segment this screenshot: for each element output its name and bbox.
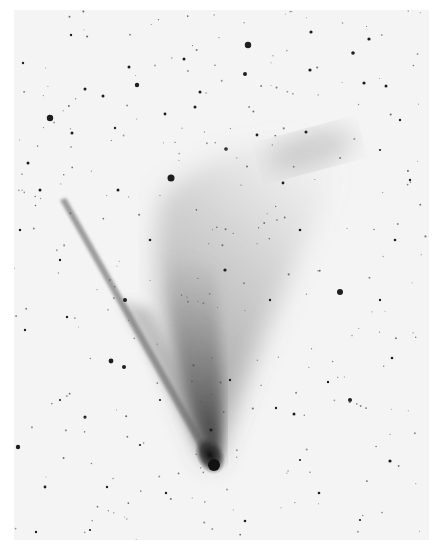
faint-star [291, 11, 292, 12]
faint-star [129, 34, 131, 36]
faint-star [263, 222, 265, 224]
faint-star [318, 503, 319, 504]
faint-star [420, 12, 421, 13]
faint-star [252, 111, 254, 113]
faint-star [332, 361, 334, 363]
faint-star [257, 359, 259, 361]
star [19, 229, 21, 231]
faint-star [294, 502, 295, 503]
faint-star [424, 235, 426, 237]
star [117, 189, 120, 192]
faint-star [286, 50, 288, 52]
faint-star [356, 403, 358, 405]
faint-star [412, 282, 413, 283]
faint-star [14, 267, 15, 269]
faint-star [83, 29, 84, 30]
faint-star [214, 142, 215, 143]
faint-star [407, 170, 409, 172]
faint-star [391, 409, 392, 410]
faint-star [366, 480, 368, 482]
faint-star [170, 498, 172, 500]
faint-star [106, 195, 107, 196]
faint-star [226, 488, 228, 490]
faint-star [248, 106, 250, 108]
faint-star [111, 140, 112, 141]
faint-star [197, 301, 198, 302]
star [293, 413, 296, 416]
faint-star [381, 34, 383, 36]
faint-star [272, 55, 273, 56]
faint-star [408, 410, 409, 411]
star [128, 66, 131, 69]
faint-star [233, 509, 234, 510]
star [89, 529, 91, 531]
faint-star [368, 277, 370, 279]
faint-star [415, 337, 417, 339]
faint-star [230, 128, 231, 129]
faint-star [421, 254, 422, 255]
faint-star [138, 214, 140, 216]
faint-star [60, 183, 61, 184]
star [309, 30, 312, 33]
faint-star [275, 206, 276, 207]
faint-star [140, 490, 142, 492]
faint-star [84, 417, 86, 419]
star [27, 162, 30, 165]
faint-star [223, 411, 225, 413]
star [16, 445, 20, 449]
faint-star [221, 244, 223, 246]
faint-star [47, 86, 48, 87]
star [367, 37, 370, 40]
star [59, 259, 61, 261]
faint-star [136, 539, 137, 540]
faint-star [116, 409, 117, 410]
faint-star [360, 405, 362, 407]
faint-star [243, 282, 245, 284]
faint-star [236, 157, 237, 158]
faint-star [178, 472, 180, 474]
faint-star [45, 67, 46, 68]
faint-star [385, 311, 386, 312]
faint-star [382, 256, 383, 257]
faint-star [128, 196, 129, 197]
star [269, 299, 271, 301]
star [135, 83, 139, 87]
faint-star [187, 15, 189, 17]
faint-star [278, 356, 279, 357]
faint-star [107, 309, 109, 311]
faint-star [43, 95, 44, 96]
faint-star [69, 16, 71, 18]
faint-star [379, 78, 380, 79]
faint-star [201, 401, 202, 402]
faint-star [276, 219, 278, 221]
faint-star [274, 135, 276, 137]
faint-star [70, 146, 72, 148]
faint-star [23, 192, 25, 194]
faint-star [171, 57, 173, 59]
faint-star [63, 244, 65, 246]
faint-star [371, 311, 372, 312]
faint-star [65, 429, 67, 431]
star [388, 459, 391, 462]
faint-star [280, 507, 281, 508]
faint-star [211, 444, 213, 446]
faint-star [271, 62, 272, 63]
faint-star [84, 532, 86, 534]
faint-star [216, 227, 218, 229]
faint-star [74, 317, 76, 319]
faint-star [119, 261, 120, 262]
faint-star [407, 184, 409, 186]
faint-star [293, 166, 295, 168]
faint-star [414, 432, 416, 434]
star [109, 359, 114, 364]
faint-star [239, 534, 241, 536]
faint-star [304, 415, 306, 417]
faint-star [366, 26, 367, 27]
faint-star [226, 148, 228, 150]
comet-image [14, 10, 429, 540]
star [379, 149, 381, 151]
faint-star [114, 286, 116, 288]
faint-star [218, 37, 219, 38]
faint-star [135, 75, 136, 76]
faint-star [68, 105, 70, 107]
